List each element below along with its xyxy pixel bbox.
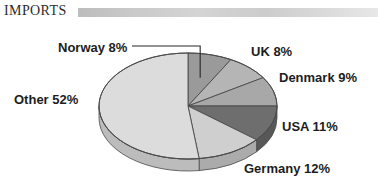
slice-label-germany: Germany 12%	[244, 161, 330, 176]
slice-label-denmark: Denmark 9%	[279, 70, 357, 85]
slice-label-norway: Norway 8%	[58, 40, 127, 55]
slice-label-other: Other 52%	[14, 92, 78, 107]
slice-label-uk: UK 8%	[251, 44, 292, 59]
imports-pie-chart: IMPORTS Norway 8% UK 8% Denmark 9% USA 1…	[0, 0, 378, 181]
pie-slices	[99, 53, 277, 159]
pie-graphic	[0, 0, 378, 181]
slice-label-usa: USA 11%	[282, 119, 338, 134]
